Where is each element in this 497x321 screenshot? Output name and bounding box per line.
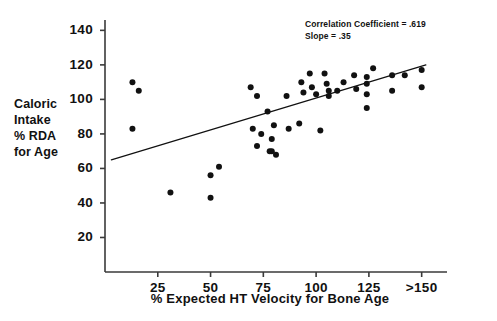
data-point — [419, 84, 425, 90]
data-point — [364, 81, 370, 87]
data-point — [265, 108, 271, 114]
y-axis-title-line: for Age — [14, 144, 86, 160]
data-point — [286, 126, 292, 132]
data-point — [353, 86, 359, 92]
data-point — [341, 79, 347, 85]
y-tick-label: 40 — [53, 196, 93, 210]
data-point — [269, 136, 275, 142]
data-point — [370, 65, 376, 71]
y-axis-title-line: Caloric — [14, 96, 86, 112]
y-axis-title: CaloricIntake% RDAfor Age — [14, 96, 86, 160]
data-point — [317, 127, 323, 133]
data-point — [322, 71, 328, 77]
data-point — [389, 72, 395, 78]
data-point — [273, 152, 279, 158]
data-point — [324, 81, 330, 87]
statistics-annotation: Correlation Coefficient = .619Slope = .3… — [305, 18, 426, 43]
data-point — [334, 88, 340, 94]
data-point — [364, 74, 370, 80]
data-point — [216, 164, 222, 170]
data-point-series — [129, 65, 424, 200]
data-point — [167, 190, 173, 196]
data-point — [136, 88, 142, 94]
data-point — [284, 93, 290, 99]
data-point — [254, 143, 260, 149]
y-tick-label: 140 — [53, 23, 93, 37]
data-point — [258, 131, 264, 137]
data-point — [248, 84, 254, 90]
data-point — [208, 195, 214, 201]
data-point — [351, 72, 357, 78]
data-point — [298, 79, 304, 85]
x-axis-title: % Expected HT Velocity for Bone Age — [105, 291, 435, 306]
data-point — [307, 71, 313, 77]
annotation-line: Slope = .35 — [305, 30, 426, 42]
data-point — [326, 93, 332, 99]
y-tick-label: 60 — [53, 161, 93, 175]
data-point — [129, 126, 135, 132]
data-point — [402, 72, 408, 78]
data-point — [309, 84, 315, 90]
data-point — [129, 79, 135, 85]
data-point — [389, 88, 395, 94]
data-point — [208, 172, 214, 178]
annotation-line: Correlation Coefficient = .619 — [305, 18, 426, 30]
y-axis-title-line: Intake — [14, 112, 86, 128]
data-point — [364, 91, 370, 97]
data-point — [326, 88, 332, 94]
scatter-plot-figure: 20406080100120140 255075100125>150 Calor… — [0, 0, 497, 321]
data-point — [419, 67, 425, 73]
y-tick-label: 120 — [53, 58, 93, 72]
data-point — [254, 93, 260, 99]
data-point — [364, 105, 370, 111]
data-point — [271, 122, 277, 128]
y-axis-title-line: % RDA — [14, 128, 86, 144]
data-point — [296, 121, 302, 127]
y-tick-label: 20 — [53, 230, 93, 244]
data-point — [313, 91, 319, 97]
data-point — [300, 89, 306, 95]
data-point — [250, 126, 256, 132]
